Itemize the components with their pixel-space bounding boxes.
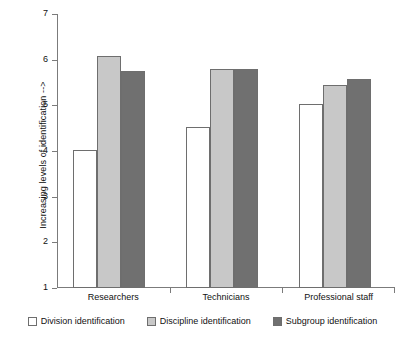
- bar: [121, 71, 145, 288]
- legend-swatch-icon: [273, 317, 282, 326]
- x-axis-label-technicians: Technicians: [170, 292, 283, 302]
- legend-label: Discipline identification: [160, 316, 251, 326]
- legend-label: Subgroup identification: [286, 316, 378, 326]
- bar: [347, 79, 371, 288]
- y-tick-7: 7: [52, 14, 57, 15]
- y-tick-label: 7: [43, 7, 48, 20]
- y-tick-label: 2: [43, 235, 48, 248]
- legend-swatch-icon: [28, 317, 37, 326]
- bar-group-technicians: [186, 14, 258, 288]
- y-tick-label: 4: [43, 144, 48, 157]
- y-tick-5: 5: [52, 105, 57, 106]
- y-tick-label: 1: [43, 281, 48, 294]
- y-tick-1: 1: [52, 288, 57, 289]
- chart-legend: Division identificationDiscipline identi…: [0, 313, 405, 329]
- y-tick-6: 6: [52, 60, 57, 61]
- y-tick-2: 2: [52, 242, 57, 243]
- x-axis-label-researchers: Researchers: [57, 292, 170, 302]
- y-tick-label: 5: [43, 98, 48, 111]
- bar: [186, 127, 210, 288]
- plot-area: 1234567: [57, 14, 395, 288]
- bar-chart: Increasing levels of identification --> …: [0, 0, 405, 340]
- y-tick-3: 3: [52, 197, 57, 198]
- legend-item-division-identification[interactable]: Division identification: [28, 316, 125, 326]
- y-tick-4: 4: [52, 151, 57, 152]
- bar: [97, 56, 121, 288]
- bar: [299, 104, 323, 288]
- bar: [73, 150, 97, 288]
- legend-item-subgroup-identification[interactable]: Subgroup identification: [273, 316, 378, 326]
- bar: [234, 69, 258, 288]
- bar: [323, 85, 347, 288]
- bar: [210, 69, 234, 288]
- bar-group-researchers: [73, 14, 145, 288]
- legend-label: Division identification: [41, 316, 125, 326]
- y-tick-label: 6: [43, 53, 48, 66]
- x-axis-label-professional-staff: Professional staff: [282, 292, 395, 302]
- bar-group-professional-staff: [299, 14, 371, 288]
- y-axis-line: [57, 14, 58, 288]
- legend-item-discipline-identification[interactable]: Discipline identification: [147, 316, 251, 326]
- legend-swatch-icon: [147, 317, 156, 326]
- y-tick-label: 3: [43, 190, 48, 203]
